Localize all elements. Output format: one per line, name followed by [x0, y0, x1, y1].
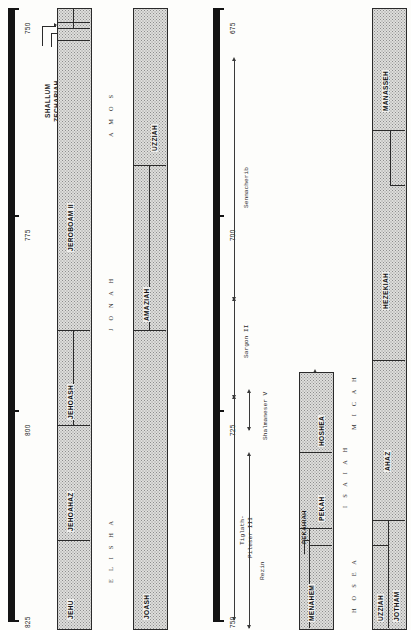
ruler-span-sargon: [234, 300, 235, 398]
axis-tick-725: [213, 410, 224, 412]
leader-pekahiah-v: [304, 540, 305, 554]
ruler-span-shalmaneser: [249, 392, 250, 430]
axis-line: [8, 8, 15, 622]
king-label-pekah: PEKAH: [318, 495, 325, 522]
timeline-panel-right: 675 700 725 750 Rezin Tiglath- Pileser I…: [205, 0, 411, 630]
prophet-label-amos: A M O S: [107, 92, 114, 137]
ruler-label-sennacherib: Sennacherib: [243, 167, 250, 208]
axis-label-825: 825: [24, 617, 31, 628]
reign-divider: [372, 520, 388, 521]
reign-divider: [57, 540, 90, 541]
israel-reign-bar: [299, 372, 334, 630]
reign-divider: [57, 28, 90, 29]
reign-divider: [388, 520, 405, 521]
arrowhead-up: [232, 57, 236, 61]
king-label-ahaz: AHAZ: [384, 450, 391, 472]
axis-tick-800: [8, 410, 19, 412]
arrowhead-down: [247, 427, 251, 431]
reign-divider: [372, 545, 388, 546]
king-label-jehu: JEHU: [67, 599, 74, 620]
reign-divider: [133, 165, 149, 166]
axis-tick-700: [213, 215, 224, 217]
israel-reign-bar: [57, 8, 92, 630]
axis-tick-825: [8, 620, 19, 622]
reign-divider-v: [390, 130, 391, 185]
king-label-manasseh: MANASSEH: [382, 70, 389, 112]
timeline-panel-left: 750 775 800 825 SHALLUM ZECHARIAH JEHU J…: [0, 0, 205, 630]
arrowhead-down: [232, 297, 236, 301]
ruler-label-rezin: Rezin: [259, 561, 266, 580]
ruler-span-sennacherib: [234, 60, 235, 300]
prophet-label-jonah: J O N A H: [107, 276, 114, 331]
leader-shallum-v: [42, 26, 43, 46]
axis-cap-top: [8, 8, 19, 10]
king-label-jeroboam-ii: JEROBOAM II: [67, 203, 74, 252]
arrowhead-up: [247, 389, 251, 393]
reign-divider: [133, 330, 166, 331]
prophet-label-elisha: E L I S H A: [107, 518, 114, 583]
reign-divider: [149, 165, 166, 166]
axis-label-750: 750: [24, 23, 31, 34]
leader-pekahiah-h: [304, 540, 310, 541]
king-label-jehoahaz: JEHOAHAZ: [67, 491, 74, 532]
reign-divider: [309, 545, 332, 546]
arrowhead-down: [247, 625, 251, 629]
leader-zechariah-v: [51, 33, 52, 47]
ruler-label-shalmaneser-v: Shalmaneser V: [262, 392, 269, 440]
arrowhead-up: [247, 452, 251, 456]
king-label-uzziah: UZZIAH: [151, 124, 158, 152]
reign-divider-v: [388, 520, 389, 628]
reign-divider: [299, 452, 332, 453]
reign-divider: [57, 40, 90, 41]
reign-divider: [57, 425, 90, 426]
reign-divider: [372, 130, 405, 131]
ruler-label-tiglath-line2: Pileser III: [247, 517, 254, 558]
king-label-jotham: JOTHAM: [393, 590, 400, 622]
ruler-label-tiglath-line1: Tiglath-: [239, 515, 246, 545]
prophet-label-hosea: H O S E A: [350, 557, 357, 613]
ruler-label-sargon-ii: Sargon II: [243, 325, 250, 358]
reign-divider: [372, 360, 405, 361]
arrowhead-down: [232, 617, 236, 621]
prophet-label-micah: M I C A H: [350, 374, 357, 430]
axis-cap-top: [213, 8, 224, 10]
axis-label-775: 775: [24, 230, 31, 241]
reign-divider: [390, 185, 405, 186]
king-label-hezekiah: HEZEKIAH: [382, 272, 389, 310]
judah-reign-bar: [372, 8, 407, 630]
king-label-amaziah: AMAZIAH: [143, 288, 150, 323]
arrowhead-down: [232, 395, 236, 399]
axis-tick-750: [213, 620, 224, 622]
king-label-uzziah: UZZIAH: [377, 594, 384, 622]
king-label-hoshea: HOSHEA: [318, 415, 325, 447]
judah-reign-bar: [133, 8, 168, 630]
king-label-menahem: MENAHEM: [308, 584, 315, 622]
axis-label-675: 675: [229, 23, 236, 34]
king-label-jehoash: JEHOASH: [67, 384, 74, 420]
ruler-span-tiglath: [234, 398, 235, 620]
axis-line: [213, 8, 220, 622]
callout-label-shallum: SHALLUM: [44, 84, 51, 118]
prophet-label-isaiah: I S A I A H: [341, 445, 348, 508]
axis-label-800: 800: [24, 425, 31, 436]
axis-tick-775: [8, 215, 19, 217]
reign-divider-v: [73, 8, 74, 28]
king-label-joash: JOASH: [143, 594, 150, 620]
